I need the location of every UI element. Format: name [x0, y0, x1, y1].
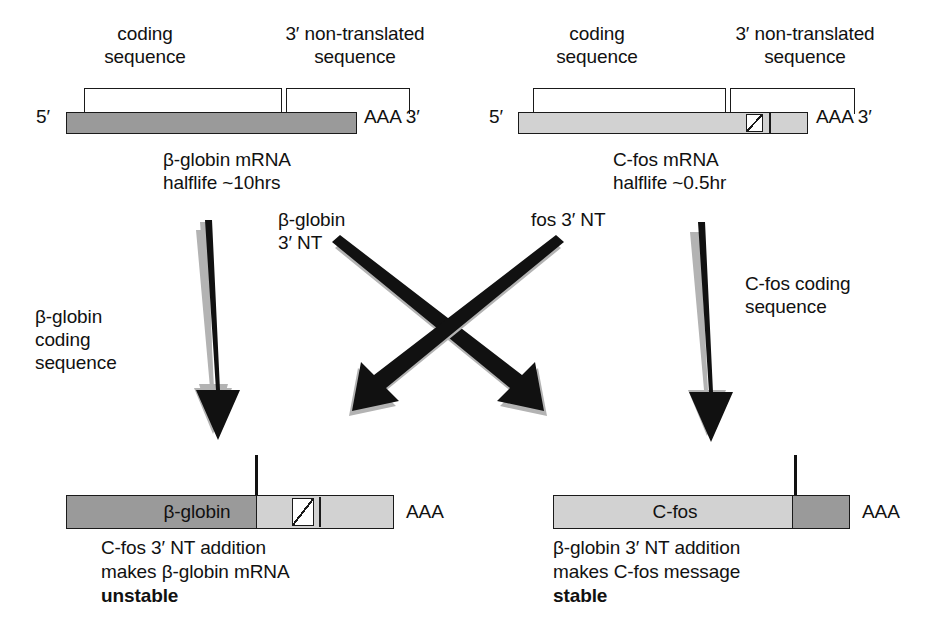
result-caption-right-emphasis: stable	[553, 584, 607, 607]
figure-canvas: coding sequence 3′ non-translated sequen…	[0, 0, 927, 630]
nt-divider-line-bottom-left	[319, 497, 321, 527]
result-caption-right-line1: β-globin 3′ NT addition	[553, 536, 740, 559]
result-caption-left-line1: C-fos 3′ NT addition	[101, 536, 266, 559]
bar-label-cfos: C-fos	[620, 500, 730, 523]
segment-bglobin-3nt	[792, 496, 849, 528]
au-rich-element-icon-bottom-left	[292, 498, 314, 526]
segment-cfos-3nt	[256, 496, 393, 528]
result-caption-left-emphasis: unstable	[101, 584, 178, 607]
polya-label-right: AAA	[862, 500, 900, 523]
result-caption-left-line2: makes β-globin mRNA	[101, 560, 290, 583]
polya-label-left: AAA	[406, 500, 444, 523]
result-caption-right-line2: makes C-fos message	[553, 560, 740, 583]
bar-label-bglobin: β-globin	[147, 500, 247, 523]
